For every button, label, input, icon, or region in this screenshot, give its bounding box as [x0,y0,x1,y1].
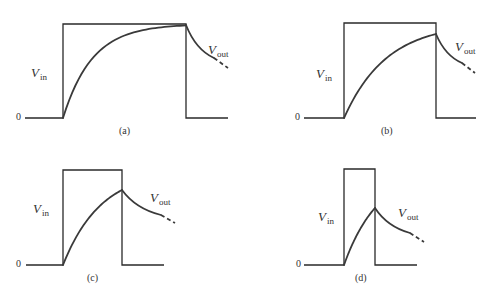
vout-decay-dashed [462,63,475,73]
vout-decay-dashed [161,215,175,223]
vout-label: Vout [150,191,170,204]
vin-label: Vin [33,202,49,215]
vout-decay-dashed [410,233,424,242]
vout-label: Vout [455,40,475,53]
vin-label: Vin [31,66,47,79]
panel-caption: (d) [355,273,367,283]
zero-level-label: 0 [16,259,21,269]
panel-caption: (c) [87,273,98,283]
panel-caption: (b) [381,126,393,136]
vin-label: Vin [318,210,334,223]
vout-label: Vout [208,43,228,56]
vout-charging-curve [63,190,122,265]
vout-charging-curve [344,34,436,118]
vout-charging-curve [344,208,375,265]
vout-label: Vout [398,206,418,219]
vin-label: Vin [316,67,332,80]
rc-response-diagram [0,0,488,294]
panel-a [25,24,228,118]
vout-charging-curve [63,25,186,118]
zero-level-label: 0 [296,259,301,269]
vout-decay-dashed [214,58,228,68]
vin-pulse-waveform [25,24,228,118]
panel-caption: (a) [119,126,130,136]
zero-level-label: 0 [295,112,300,122]
zero-level-label: 0 [16,112,21,122]
